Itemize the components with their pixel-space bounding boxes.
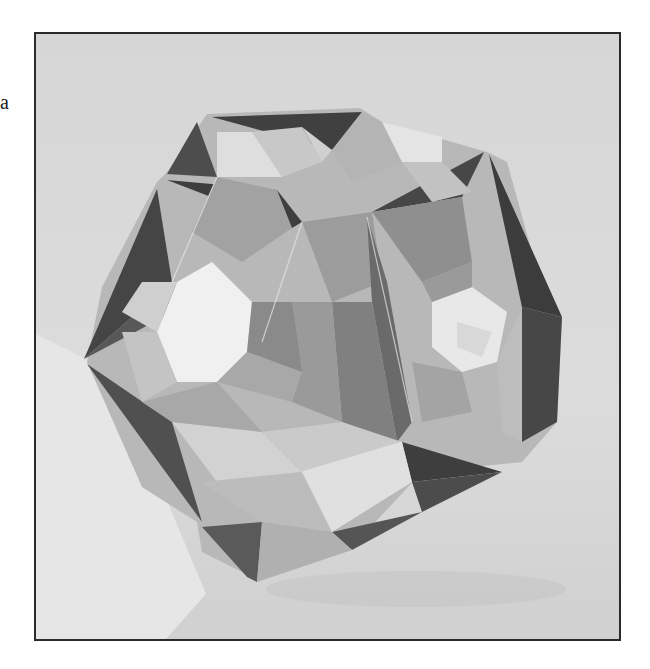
stray-text-fragment: a [0,92,9,112]
photo-frame [34,32,621,641]
origami-polyhedron-photo [36,34,619,639]
